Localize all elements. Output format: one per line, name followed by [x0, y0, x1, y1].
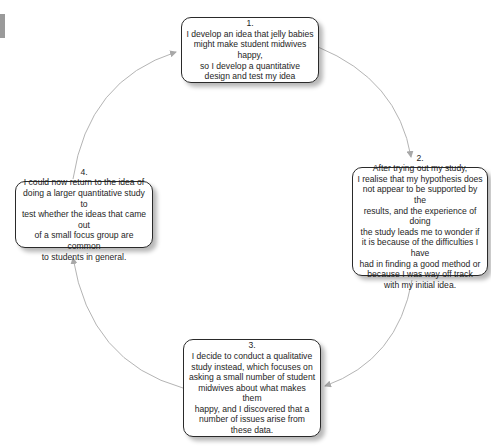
step-3-box: 3. I decide to conduct a qualitative stu… — [183, 339, 321, 437]
step-4-text: I could now return to the idea of doing … — [20, 177, 148, 262]
step-1-number: 1. — [246, 18, 253, 29]
step-2-number: 2. — [416, 153, 423, 164]
arrow-1-to-2 — [318, 47, 411, 157]
step-4-box: 4. I could now return to the idea of doi… — [15, 181, 153, 248]
step-2-box: 2. After trying out my study, I realise … — [352, 167, 488, 276]
step-2-text: After trying out my study, I realise tha… — [357, 163, 483, 290]
step-3-number: 3. — [248, 340, 255, 351]
step-4-number: 4. — [80, 167, 87, 178]
step-1-text: I develop an idea that jelly babies migh… — [186, 29, 314, 82]
arrow-2-to-3 — [325, 280, 412, 386]
arrow-4-to-1 — [73, 52, 176, 179]
step-1-box: 1. I develop an idea that jelly babies m… — [181, 17, 319, 83]
arrow-3-to-4 — [73, 258, 183, 388]
step-3-text: I decide to conduct a qualitative study … — [188, 351, 316, 436]
